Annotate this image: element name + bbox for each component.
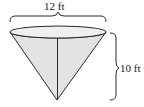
diameter-brace bbox=[10, 12, 106, 22]
diameter-label: 12 ft bbox=[44, 1, 64, 12]
cone-diagram bbox=[0, 0, 144, 107]
cone-top-ellipse bbox=[10, 26, 106, 38]
height-label: 10 ft bbox=[120, 63, 140, 74]
height-brace bbox=[110, 33, 119, 100]
